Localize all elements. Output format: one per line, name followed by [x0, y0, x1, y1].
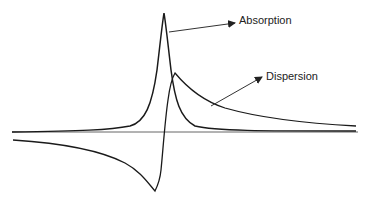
- absorption-label: Absorption: [239, 14, 292, 26]
- absorption-dispersion-diagram: Absorption Dispersion: [0, 0, 365, 204]
- dispersion-label: Dispersion: [266, 70, 318, 82]
- absorption-arrow: [169, 23, 235, 32]
- dispersion-arrow: [211, 77, 262, 106]
